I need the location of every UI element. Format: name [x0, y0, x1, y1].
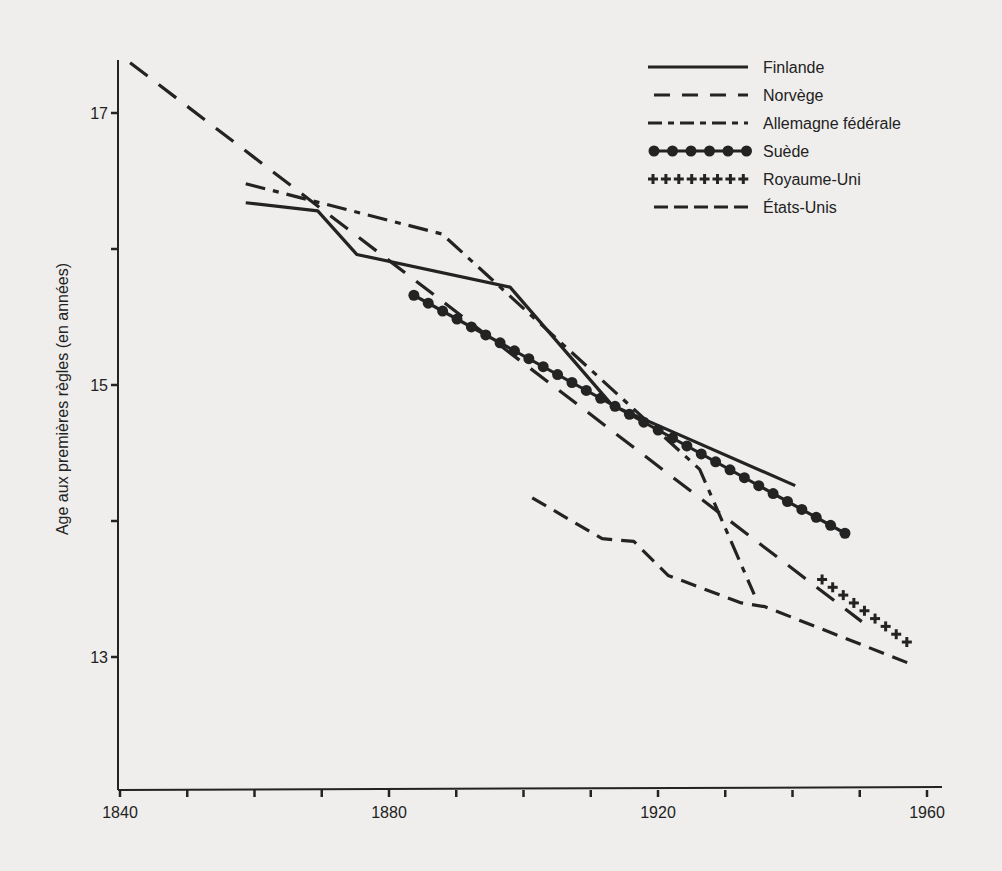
- y-axis-label: Age aux premières règles (en années): [54, 263, 71, 535]
- dot-marker: [839, 528, 850, 539]
- legend-label: Norvège: [763, 87, 824, 104]
- series-line: [532, 498, 910, 664]
- dot-marker: [796, 504, 807, 515]
- legend-item: Norvège: [654, 87, 824, 104]
- dot-marker: [667, 146, 678, 157]
- dot-marker: [653, 425, 664, 436]
- legend-item: États-Unis: [654, 198, 837, 216]
- dot-marker: [753, 480, 764, 491]
- x-axis-line: [118, 787, 942, 790]
- dot-marker: [638, 417, 649, 428]
- dot-marker: [825, 520, 836, 531]
- legend-item: Finlande: [648, 59, 824, 76]
- dot-marker: [681, 440, 692, 451]
- series-royaume-uni: [817, 574, 912, 647]
- chart: 1840188019201960131517 FinlandeNorvègeAl…: [0, 0, 1002, 871]
- dot-marker: [437, 306, 448, 317]
- series--tats-unis: [532, 498, 910, 664]
- dot-marker: [811, 512, 822, 523]
- legend-label: Royaume-Uni: [763, 171, 861, 188]
- dot-marker: [480, 329, 491, 340]
- x-tick-label: 1840: [102, 804, 138, 821]
- dot-marker: [595, 393, 606, 404]
- dot-marker: [509, 345, 520, 356]
- dot-marker: [466, 321, 477, 332]
- dot-marker: [408, 290, 419, 301]
- dot-marker: [624, 409, 635, 420]
- x-tick-label: 1880: [371, 804, 407, 821]
- dot-marker: [581, 385, 592, 396]
- dot-marker: [610, 401, 621, 412]
- legend-label: Suède: [763, 143, 809, 160]
- legend-label: Allemagne fédérale: [763, 115, 901, 132]
- dot-marker: [696, 448, 707, 459]
- dot-marker: [782, 496, 793, 507]
- dot-marker: [686, 146, 697, 157]
- legend-item: Allemagne fédérale: [648, 115, 901, 132]
- series-allemagne-f-d-rale: [246, 184, 754, 595]
- dot-marker: [725, 464, 736, 475]
- series-finlande: [246, 203, 795, 486]
- dot-marker: [538, 361, 549, 372]
- dot-marker: [723, 146, 734, 157]
- series-su-de: [408, 290, 850, 539]
- y-tick-label: 17: [90, 105, 108, 122]
- y-tick-label: 13: [90, 649, 108, 666]
- series-line: [246, 184, 754, 595]
- dot-marker: [667, 433, 678, 444]
- dot-marker: [552, 369, 563, 380]
- legend-label: Finlande: [763, 59, 824, 76]
- dot-marker: [741, 146, 752, 157]
- dot-marker: [768, 488, 779, 499]
- legend: FinlandeNorvègeAllemagne fédéraleSuèdeRo…: [648, 59, 901, 216]
- dot-marker: [423, 298, 434, 309]
- x-tick-label: 1920: [640, 804, 676, 821]
- dot-marker: [710, 456, 721, 467]
- x-tick-label: 1960: [909, 804, 945, 821]
- dot-marker: [495, 337, 506, 348]
- dot-marker: [739, 472, 750, 483]
- dot-marker: [649, 146, 660, 157]
- legend-item: Royaume-Uni: [648, 171, 861, 188]
- legend-swatch: [649, 146, 753, 157]
- dot-marker: [704, 146, 715, 157]
- y-tick-label: 15: [90, 377, 108, 394]
- dot-marker: [451, 314, 462, 325]
- dot-marker: [523, 353, 534, 364]
- legend-item: Suède: [649, 143, 810, 160]
- legend-label: États-Unis: [763, 198, 837, 216]
- series-line: [246, 203, 795, 486]
- dot-marker: [566, 377, 577, 388]
- legend-swatch: [648, 174, 748, 184]
